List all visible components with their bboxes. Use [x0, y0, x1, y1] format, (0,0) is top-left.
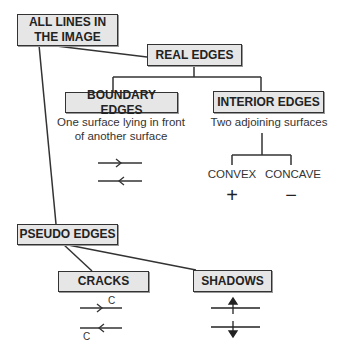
- node-real-edges-label: REAL EDGES: [156, 48, 234, 63]
- node-interior-edges: INTERIOR EDGES: [213, 91, 324, 113]
- concave-label: CONCAVE: [263, 167, 323, 181]
- node-real-edges: REAL EDGES: [147, 44, 242, 66]
- interior-description: Two adjoining surfaces: [205, 115, 333, 129]
- node-cracks-label: CRACKS: [78, 274, 129, 289]
- node-pseudo-edges-label: PSEUDO EDGES: [19, 227, 115, 242]
- boundary-arrows-icon: [98, 159, 142, 185]
- concave-minus-icon: −: [281, 184, 301, 207]
- node-interior-edges-label: INTERIOR EDGES: [217, 95, 320, 110]
- node-boundary-edges-label: BOUNDARY EDGES: [66, 88, 177, 118]
- shadow-arrows-icon: [211, 298, 260, 337]
- crack-mark-bottom: C: [83, 331, 90, 342]
- node-all-lines: ALL LINES IN THE IMAGE: [17, 14, 118, 46]
- node-all-lines-label: ALL LINES IN THE IMAGE: [28, 15, 108, 45]
- node-shadows: SHADOWS: [193, 270, 272, 292]
- convex-label: CONVEX: [202, 167, 262, 181]
- crack-arrows-icon: [80, 304, 122, 332]
- node-shadows-label: SHADOWS: [201, 274, 264, 289]
- node-pseudo-edges: PSEUDO EDGES: [17, 224, 118, 245]
- node-boundary-edges: BOUNDARY EDGES: [65, 92, 178, 113]
- crack-mark-top: C: [108, 295, 115, 306]
- convex-plus-icon: +: [222, 184, 242, 207]
- node-cracks: CRACKS: [58, 271, 149, 292]
- boundary-description: One surface lying in front of another su…: [55, 115, 187, 143]
